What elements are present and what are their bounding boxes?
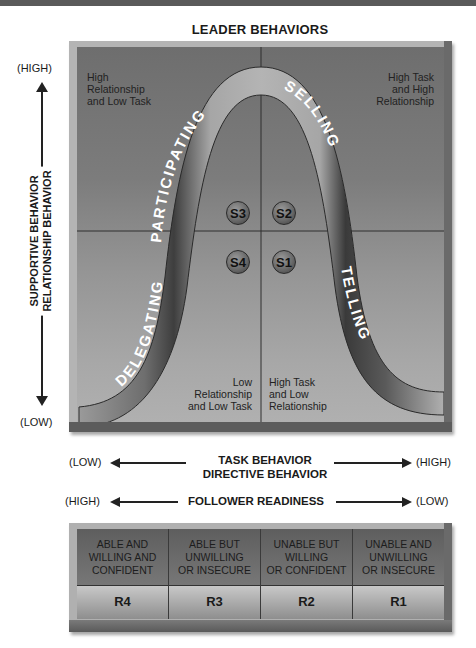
readiness-code: R2 bbox=[261, 586, 352, 619]
top-border-strip bbox=[0, 0, 476, 6]
readiness-description: ABLE AND WILLING AND CONFIDENT bbox=[77, 529, 168, 586]
table-bevel-right bbox=[444, 523, 452, 632]
style-bubble-s4: S4 bbox=[226, 250, 250, 274]
y-axis-label: SUPPORTIVE BEHAVIOR RELATIONSHIP BEHAVIO… bbox=[28, 166, 54, 315]
quadrant-label-low-relationship-low-task: Low Relationship and Low Task bbox=[188, 376, 252, 412]
readiness-axis-line-left bbox=[118, 501, 178, 503]
task-axis-line-left bbox=[118, 462, 186, 464]
y-axis-high-label: (HIGH) bbox=[17, 62, 52, 74]
readiness-code: R1 bbox=[353, 586, 444, 619]
chart-panel: PARTICIPATING SELLING DELEGATING TELLING… bbox=[77, 47, 444, 422]
task-axis-low-label: (LOW) bbox=[69, 456, 101, 468]
y-axis-label-line2: RELATIONSHIP BEHAVIOR bbox=[41, 170, 54, 311]
quadrant-label-high-relationship-low-task: High Relationship and Low Task bbox=[87, 71, 151, 107]
leadership-model-chart: PARTICIPATING SELLING DELEGATING TELLING… bbox=[69, 41, 452, 432]
arrow-down-icon bbox=[36, 396, 48, 406]
y-axis-label-line1: SUPPORTIVE BEHAVIOR bbox=[28, 170, 41, 311]
readiness-code: R4 bbox=[77, 586, 168, 619]
readiness-description: UNABLE AND UNWILLING OR INSECURE bbox=[353, 529, 444, 586]
readiness-axis-line-right bbox=[336, 501, 402, 503]
readiness-column-r2: UNABLE BUT WILLING OR CONFIDENT R2 bbox=[261, 529, 353, 619]
style-bubble-s3: S3 bbox=[226, 201, 250, 225]
frame-bevel-right bbox=[444, 41, 452, 432]
readiness-axis-high-label: (HIGH) bbox=[65, 495, 100, 507]
y-axis-low-label: (LOW) bbox=[20, 416, 52, 428]
readiness-table: ABLE AND WILLING AND CONFIDENT R4 ABLE B… bbox=[69, 523, 452, 632]
readiness-description: UNABLE BUT WILLING OR CONFIDENT bbox=[261, 529, 352, 586]
arrow-right-icon bbox=[402, 497, 412, 507]
style-bubble-s1: S1 bbox=[272, 250, 296, 274]
readiness-axis-low-label: (LOW) bbox=[416, 495, 448, 507]
quadrant-label-high-task-low-relationship: High Task and Low Relationship bbox=[269, 376, 327, 412]
task-axis-high-label: (HIGH) bbox=[416, 456, 451, 468]
readiness-columns: ABLE AND WILLING AND CONFIDENT R4 ABLE B… bbox=[77, 529, 444, 619]
readiness-column-r1: UNABLE AND UNWILLING OR INSECURE R1 bbox=[353, 529, 444, 619]
task-axis-label: TASK BEHAVIOR DIRECTIVE BEHAVIOR bbox=[190, 453, 340, 481]
readiness-axis-label: FOLLOWER READINESS bbox=[180, 494, 332, 508]
readiness-column-r3: ABLE BUT UNWILLING OR INSECURE R3 bbox=[169, 529, 261, 619]
table-bevel-bottom bbox=[69, 620, 452, 632]
quadrant-label-high-task-high-relationship: High Task and High Relationship bbox=[376, 71, 434, 107]
task-axis-line-right bbox=[334, 462, 404, 464]
readiness-column-r4: ABLE AND WILLING AND CONFIDENT R4 bbox=[77, 529, 169, 619]
frame-bevel-bottom bbox=[69, 422, 452, 432]
style-bubble-s2: S2 bbox=[272, 201, 296, 225]
readiness-code: R3 bbox=[169, 586, 260, 619]
arrow-right-icon bbox=[402, 458, 412, 468]
diagram-title: LEADER BEHAVIORS bbox=[0, 22, 476, 37]
readiness-description: ABLE BUT UNWILLING OR INSECURE bbox=[169, 529, 260, 586]
